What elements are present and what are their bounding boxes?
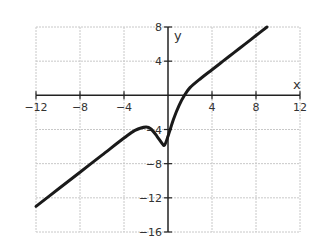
x-tick-label: −12 <box>24 101 47 114</box>
data-curve <box>36 27 267 206</box>
x-tick-label: 8 <box>253 101 260 114</box>
x-tick-label: −4 <box>116 101 132 114</box>
y-axis-label: y <box>174 28 182 43</box>
x-tick-label: −8 <box>72 101 88 114</box>
y-tick-label: −16 <box>139 226 162 239</box>
y-tick-label: −8 <box>146 158 162 171</box>
y-tick-label: 4 <box>155 55 162 68</box>
x-axis-label: x <box>293 77 301 92</box>
y-tick-label: 8 <box>155 21 162 34</box>
x-tick-label: 12 <box>293 101 307 114</box>
function-graph: −12−8−4481284−4−8−12−16 x y <box>0 0 320 246</box>
x-tick-label: 4 <box>209 101 216 114</box>
y-tick-label: −12 <box>139 192 162 205</box>
